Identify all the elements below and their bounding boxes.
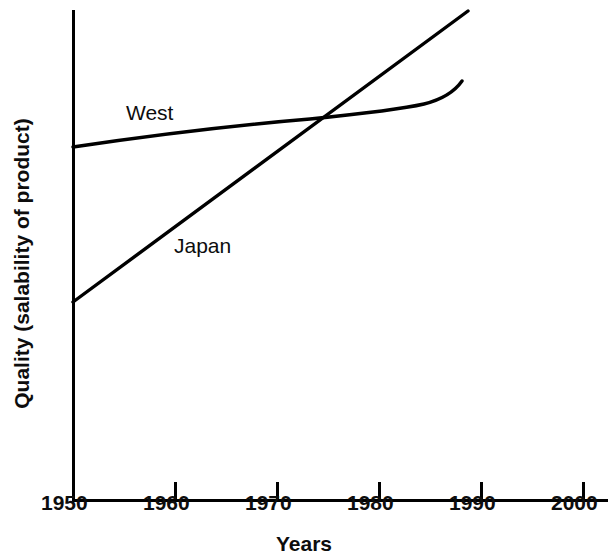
series-label-japan: Japan — [174, 235, 231, 256]
x-axis-title: Years — [0, 533, 608, 554]
chart-figure: 1950 1960 1970 1980 1990 2000 West Japan… — [0, 0, 608, 558]
x-tick-label-2000: 2000 — [551, 492, 598, 513]
x-tick-label-1960: 1960 — [143, 492, 190, 513]
x-tick-label-1970: 1970 — [245, 492, 292, 513]
y-axis-title: Quality (salability of product) — [11, 104, 32, 424]
series-line-japan — [73, 11, 468, 302]
series-label-west: West — [126, 102, 173, 123]
x-tick-label-1950: 1950 — [41, 492, 88, 513]
x-tick-label-1980: 1980 — [347, 492, 394, 513]
x-tick-label-1990: 1990 — [449, 492, 496, 513]
chart-plot-area — [0, 0, 608, 558]
